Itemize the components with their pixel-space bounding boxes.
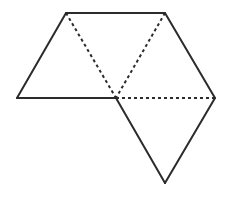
triangle-net-diagram	[0, 0, 225, 206]
background	[0, 0, 225, 206]
